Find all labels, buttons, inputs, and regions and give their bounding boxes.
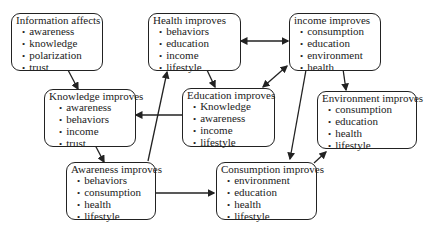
node-item: trust — [59, 138, 131, 150]
node-consumption: Consumption improves environment educati… — [216, 162, 317, 220]
node-item: lifestyle — [77, 211, 151, 223]
node-item: lifestyle — [193, 137, 270, 149]
node-item: trust — [22, 62, 98, 74]
node-information: Information affects awareness knowledge … — [11, 13, 103, 71]
edge-income-education — [263, 66, 287, 87]
edge-awareness-health — [148, 72, 167, 161]
node-awareness: Awareness improves behaviors consumption… — [66, 162, 156, 220]
node-education: Education improves Knowledge awareness i… — [182, 88, 275, 147]
node-health: Health improves behaviors education inco… — [148, 13, 241, 71]
edge-consumption-environment — [314, 152, 326, 163]
node-item: health — [300, 62, 376, 74]
node-item: lifestyle — [227, 211, 312, 223]
node-item: lifestyle — [328, 140, 412, 152]
node-knowledge: Knowledge improves awareness behaviors i… — [44, 89, 136, 147]
edge-income-consumption — [290, 70, 306, 159]
node-income: income improves consumption education en… — [289, 13, 381, 71]
node-environment: Environment improves consumption educati… — [317, 91, 417, 149]
node-item: lifestyle — [159, 62, 236, 74]
